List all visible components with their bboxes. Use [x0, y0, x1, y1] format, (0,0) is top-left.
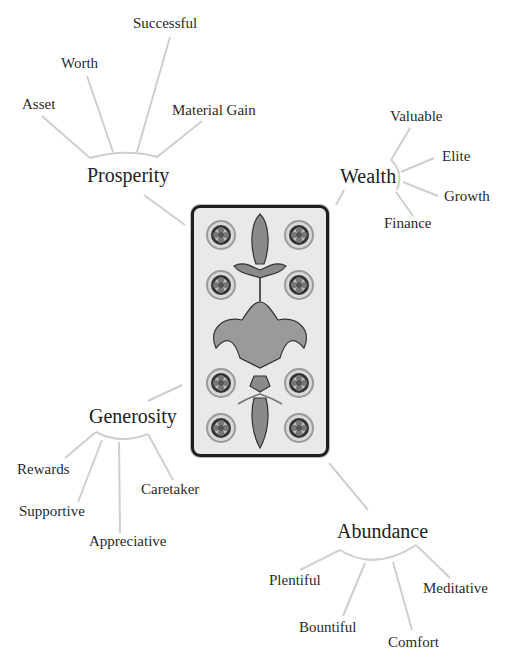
ten-of-coins-card [191, 205, 329, 457]
branch-caretaker: Caretaker [141, 481, 199, 498]
branch-successful: Successful [133, 15, 197, 32]
branch-valuable: Valuable [390, 108, 442, 125]
branch-asset: Asset [22, 96, 55, 113]
hub-abundance: Abundance [337, 520, 428, 543]
branch-comfort: Comfort [388, 634, 439, 651]
branch-bountiful: Bountiful [299, 619, 357, 636]
branch-material-gain: Material Gain [172, 102, 256, 119]
hub-prosperity: Prosperity [87, 164, 169, 187]
branch-meditative: Meditative [423, 580, 488, 597]
branch-elite: Elite [442, 148, 470, 165]
ornament-icon [194, 208, 326, 454]
branch-worth: Worth [61, 55, 98, 72]
hub-wealth: Wealth [340, 165, 396, 188]
branch-appreciative: Appreciative [89, 533, 166, 550]
branch-growth: Growth [444, 188, 490, 205]
branch-supportive: Supportive [19, 503, 85, 520]
branch-finance: Finance [384, 215, 431, 232]
branch-rewards: Rewards [17, 461, 70, 478]
hub-generosity: Generosity [89, 405, 177, 428]
branch-plentiful: Plentiful [269, 572, 321, 589]
